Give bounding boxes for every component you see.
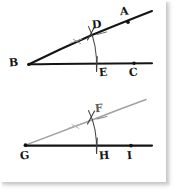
label-A: A	[120, 6, 129, 18]
label-B: B	[9, 57, 19, 69]
diagram-root: A D B E C F G H I	[0, 0, 178, 193]
geometry-canvas	[0, 0, 178, 193]
ray-G-upper-faint	[26, 100, 147, 146]
label-I: I	[127, 150, 133, 161]
cross-tick-E	[97, 57, 98, 72]
vertex-dot-B	[27, 63, 30, 66]
ray-BA	[29, 11, 153, 65]
upper-figure-group	[27, 11, 152, 72]
cross-tick-H	[97, 138, 98, 154]
label-G: G	[20, 150, 30, 162]
label-D: D	[92, 19, 102, 31]
label-C: C	[129, 67, 139, 79]
label-F: F	[95, 103, 104, 115]
point-dot-C	[132, 61, 136, 65]
point-dot-A	[126, 21, 130, 25]
label-E: E	[99, 67, 108, 79]
label-H: H	[99, 150, 110, 162]
vertex-dot-G	[24, 143, 28, 147]
lower-figure-group	[24, 100, 152, 154]
